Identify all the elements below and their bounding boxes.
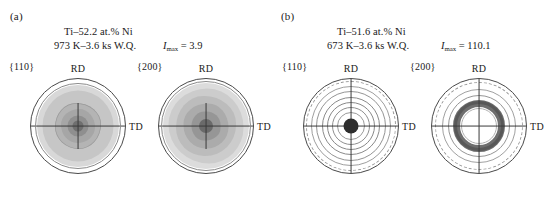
panel-b-imax: Imax = 110.1 <box>441 40 491 51</box>
pole-figure-b-110: {110} RD TD <box>303 78 399 174</box>
td-label: TD <box>129 121 143 132</box>
td-axis-line <box>432 126 526 127</box>
pole-figure-a-200: {200} RD TD <box>158 78 254 174</box>
contour-peak <box>344 119 359 134</box>
pole-figure-disc <box>431 78 527 174</box>
panel-b-composition: Ti–51.6 at.% Ni <box>337 26 406 37</box>
rd-label: RD <box>344 63 359 74</box>
plane-label-110: {110} <box>282 61 307 72</box>
inner-guide-circle <box>161 81 251 171</box>
panel-b-label: (b) <box>281 10 294 22</box>
rd-label: RD <box>472 63 487 74</box>
imax-subscript: max <box>167 45 179 52</box>
pole-figure-b-200: {200} RD TD <box>431 78 527 174</box>
pole-figure-disc <box>158 78 254 174</box>
rd-label: RD <box>71 63 86 74</box>
imax-symbol: I <box>163 40 167 51</box>
plane-label-200: {200} <box>410 61 436 72</box>
panel-b: (b) Ti–51.6 at.% Ni 673 K–3.6 ks W.Q. Im… <box>269 0 538 202</box>
panel-b-treatment: 673 K–3.6 ks W.Q. <box>327 40 409 51</box>
imax-equals-value: = 3.9 <box>181 40 203 51</box>
imax-equals-value: = 110.1 <box>459 40 491 51</box>
td-label: TD <box>402 121 416 132</box>
panel-a-treatment: 973 K–3.6 ks W.Q. <box>54 40 136 51</box>
imax-symbol: I <box>441 40 445 51</box>
plane-label-110: {110} <box>9 61 34 72</box>
pole-figure-a-110: {110} RD TD <box>30 78 126 174</box>
plane-label-200: {200} <box>137 61 163 72</box>
panel-a-imax: Imax = 3.9 <box>163 40 203 51</box>
inner-guide-circle <box>35 83 121 169</box>
panel-a-composition: Ti–52.2 at.% Ni <box>64 26 133 37</box>
panel-a: (a) Ti–52.2 at.% Ni 973 K–3.6 ks W.Q. Im… <box>0 0 269 202</box>
panel-a-label: (a) <box>10 10 23 22</box>
imax-subscript: max <box>445 45 457 52</box>
pole-figure-disc <box>30 78 126 174</box>
td-label: TD <box>530 121 544 132</box>
rd-label: RD <box>199 63 214 74</box>
pole-figure-disc <box>303 78 399 174</box>
